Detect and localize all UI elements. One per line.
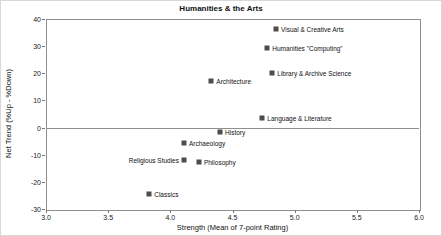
data-point-marker [182,158,187,163]
plot-area [46,19,421,211]
y-tick-mark [42,73,45,74]
data-point-label: Philosophy [204,158,236,165]
data-point-marker [270,71,275,76]
y-tick-label: -30 [19,206,41,213]
y-tick-label: 0 [19,124,41,131]
y-tick-label: 20 [19,70,41,77]
x-tick-label: 6.0 [414,214,424,221]
y-tick-mark [42,182,45,183]
data-point-marker [218,129,223,134]
x-tick-mark [295,210,296,213]
x-tick-mark [233,210,234,213]
data-point-label: History [225,128,245,135]
y-tick-label: 10 [19,97,41,104]
data-point-marker [147,192,152,197]
data-point-marker [265,45,270,50]
x-tick-mark [108,210,109,213]
y-tick-mark [42,100,45,101]
data-point-label: Library & Archive Science [277,70,351,77]
data-point-marker [260,116,265,121]
x-tick-label: 5.0 [290,214,300,221]
y-tick-label: 30 [19,43,41,50]
data-point-label: Humanities "Computing" [272,44,342,51]
data-point-label: Language & Literature [267,115,331,122]
y-tick-mark [42,209,45,210]
data-point-label: Architecture [216,78,251,85]
x-tick-label: 4.5 [228,214,238,221]
x-tick-label: 3.5 [103,214,113,221]
data-point-label: Classics [154,191,178,198]
x-axis-label: Strength (Mean of 7-point Rating) [46,223,419,232]
y-tick-label: -10 [19,151,41,158]
data-point-marker [182,140,187,145]
data-point-label: Archaeology [189,139,225,146]
x-tick-label: 5.5 [352,214,362,221]
x-tick-mark [170,210,171,213]
data-point-label: Religious Studies [129,157,179,164]
y-tick-label: -20 [19,178,41,185]
x-tick-mark [419,210,420,213]
data-point-label: Visual & Creative Arts [281,25,344,32]
x-tick-mark [46,210,47,213]
data-point-marker [196,159,201,164]
y-tick-mark [42,128,45,129]
y-tick-label: 40 [19,16,41,23]
data-point-marker [274,26,279,31]
data-point-marker [209,79,214,84]
x-tick-mark [357,210,358,213]
x-tick-label: 3.0 [41,214,51,221]
chart-figure: Humanities & the Arts Net Trend (%Up - %… [0,0,442,236]
x-tick-label: 4.0 [165,214,175,221]
y-axis-label: Net Trend (%Up - %Down) [4,54,13,174]
y-tick-mark [42,46,45,47]
y-tick-mark [42,155,45,156]
y-tick-mark [42,19,45,20]
chart-title: Humanities & the Arts [1,4,441,13]
